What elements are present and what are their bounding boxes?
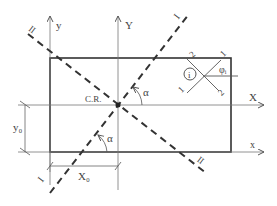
x-axis-small-label: x	[250, 139, 255, 150]
angle-alpha-bottom-label: α	[107, 132, 113, 144]
line-I-bottom-label: I	[35, 175, 46, 184]
phi-i-label: φᵢ	[219, 64, 227, 75]
fiber-1-bottom-label: 1	[176, 84, 186, 94]
y-axis-small-label: y	[56, 19, 62, 31]
dim-x0-label: X₀	[78, 170, 90, 182]
cross-section-diagram: y Y X x I I II II C.R. α α y₀ X₀ i φᵢ 2 …	[0, 0, 277, 206]
line-I-top-label: I	[171, 12, 182, 21]
center-of-rotation-label: C.R.	[85, 94, 102, 104]
angle-arc-bottom	[98, 135, 107, 152]
fiber-2-bottom-label: 2	[216, 87, 226, 97]
angle-alpha-top-label: α	[143, 86, 149, 98]
dim-y0-label: y₀	[13, 121, 23, 133]
fiber-1-top-label: 1	[218, 48, 228, 58]
angle-arc-top	[133, 87, 142, 105]
line-II-top-label: II	[27, 24, 38, 36]
line-II-bottom-label: II	[195, 154, 206, 166]
y-axis-big-label: Y	[125, 19, 133, 31]
center-of-rotation-point	[116, 103, 121, 108]
x-axis-big-label: X	[249, 91, 257, 103]
